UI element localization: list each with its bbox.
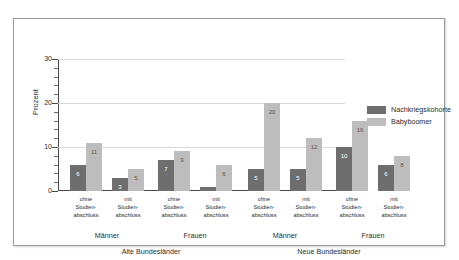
bar-value-label: 11 — [86, 149, 102, 155]
category-label: mitStudien-abschluss — [372, 195, 416, 219]
y-tick-minor — [54, 173, 58, 174]
legend-item[interactable]: Nachkriegskohorte — [367, 105, 451, 114]
y-tick-minor — [54, 85, 58, 86]
y-tick-minor — [54, 68, 58, 69]
bar — [200, 187, 216, 191]
y-tick-major — [52, 59, 58, 60]
category-label: mitStudien-abschluss — [194, 195, 238, 219]
category-label: ohneStudien-abschluss — [330, 195, 374, 219]
y-tick-minor — [54, 112, 58, 113]
bar-value-label: 6 — [378, 171, 394, 177]
y-tick-major — [52, 191, 58, 192]
y-tick-label: 20 — [32, 99, 52, 106]
category-label: ohneStudien-abschluss — [242, 195, 286, 219]
legend: NachkriegskohorteBabyboomer — [367, 105, 451, 129]
bar-value-label: 5 — [248, 175, 264, 181]
plot-area: 0102030 63755106115962012168 — [58, 59, 345, 191]
group-label: Frauen — [333, 231, 413, 240]
y-tick-minor — [54, 77, 58, 78]
bar — [378, 165, 394, 191]
y-tick-major — [52, 147, 58, 148]
bar-value-label: 8 — [394, 162, 410, 168]
bar-value-label: 9 — [174, 157, 190, 163]
group-label: Männer — [245, 231, 325, 240]
bar-value-label: 5 — [128, 175, 144, 181]
bar-value-label: 6 — [70, 171, 86, 177]
bar-value-label: 16 — [352, 127, 368, 133]
y-tick-minor — [54, 138, 58, 139]
y-tick-label: 0 — [32, 187, 52, 194]
chart-frame: Prozent 0102030 63755106115962012168 ohn… — [13, 18, 445, 246]
y-axis-line — [58, 59, 59, 191]
y-tick-minor — [54, 121, 58, 122]
legend-label: Babyboomer — [391, 117, 432, 126]
bar — [70, 165, 86, 191]
bar-value-label: 5 — [290, 175, 306, 181]
y-tick-major — [52, 103, 58, 104]
bar-value-label: 3 — [112, 184, 128, 190]
y-tick-minor — [54, 165, 58, 166]
category-label: mitStudien-abschluss — [284, 195, 328, 219]
y-tick-minor — [54, 129, 58, 130]
legend-item[interactable]: Babyboomer — [367, 117, 451, 126]
bar — [216, 165, 232, 191]
category-label: ohneStudien-abschluss — [152, 195, 196, 219]
y-tick-minor — [54, 182, 58, 183]
gridline — [58, 59, 345, 60]
group-label: Frauen — [155, 231, 235, 240]
category-label: mitStudien-abschluss — [106, 195, 150, 219]
y-tick-minor — [54, 156, 58, 157]
group-label: Männer — [67, 231, 147, 240]
y-tick-label: 10 — [32, 143, 52, 150]
bar-value-label: 12 — [306, 144, 322, 150]
category-label: ohneStudien-abschluss — [64, 195, 108, 219]
bar-value-label: 6 — [216, 171, 232, 177]
region-label: Alte Bundesländer — [76, 247, 226, 256]
region-label: Neue Bundesländer — [254, 247, 404, 256]
y-tick-minor — [54, 94, 58, 95]
bar — [264, 103, 280, 191]
y-tick-label: 30 — [32, 55, 52, 62]
legend-swatch — [367, 118, 386, 126]
bar-value-label: 20 — [264, 109, 280, 115]
gridline — [58, 103, 345, 104]
legend-label: Nachkriegskohorte — [391, 105, 451, 114]
bar-value-label: 7 — [158, 166, 174, 172]
bar — [158, 160, 174, 191]
legend-swatch — [367, 106, 386, 114]
bar-value-label: 10 — [336, 153, 352, 159]
